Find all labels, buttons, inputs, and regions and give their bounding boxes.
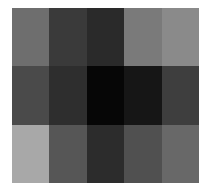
heatmap-cell [12,66,49,124]
heatmap-cell [124,66,161,124]
chart-canvas [0,0,212,189]
heatmap-cell [124,125,161,183]
heatmap-cell [49,8,86,66]
heatmap-cell [12,125,49,183]
heatmap-cell [162,66,199,124]
heatmap-cell [87,66,124,124]
heatmap-cell [124,8,161,66]
heatmap-cell [162,8,199,66]
heatmap-cell [162,125,199,183]
heatmap-cell [87,8,124,66]
heatmap-grid [12,8,199,183]
heatmap-cell [87,125,124,183]
heatmap-cell [12,8,49,66]
heatmap-cell [49,125,86,183]
heatmap-cell [49,66,86,124]
